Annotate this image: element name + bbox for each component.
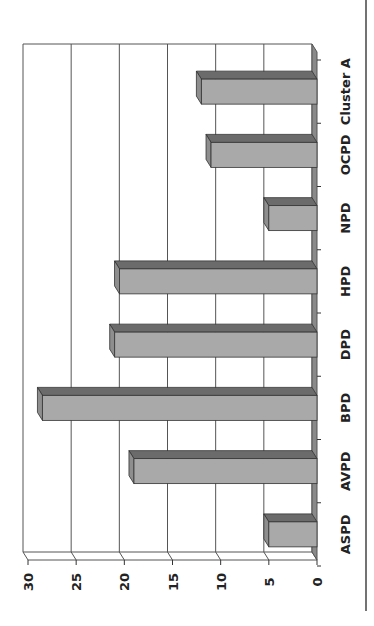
value-axis-ticks: 051015202530 — [21, 560, 325, 591]
bar-npd — [264, 198, 317, 231]
bar-dpd — [110, 324, 317, 357]
category-label: BPD — [338, 393, 353, 423]
category-label: HPD — [338, 266, 353, 297]
value-tick-label: 30 — [21, 573, 36, 591]
category-label: ASPD — [338, 514, 353, 554]
bar-aspd — [264, 514, 317, 547]
value-tick-label: 5 — [262, 577, 277, 586]
category-label: OCPD — [338, 134, 353, 175]
category-label: Cluster A — [338, 58, 353, 125]
value-tick-label: 15 — [166, 573, 181, 591]
bar-avpd — [129, 451, 317, 484]
gridlines — [23, 44, 321, 566]
category-label: NPD — [338, 202, 353, 233]
category-label: DPD — [338, 329, 353, 360]
value-tick-label: 10 — [214, 573, 229, 591]
bar-chart: 051015202530 ASPDAVPDBPDDPDHPDNPDOCPDClu… — [0, 0, 374, 626]
value-tick-label: 0 — [310, 577, 325, 586]
bar-cluster-a — [196, 71, 317, 104]
bar-ocpd — [206, 134, 317, 167]
bars — [37, 71, 317, 547]
value-tick-label: 25 — [69, 573, 84, 591]
category-labels: ASPDAVPDBPDDPDHPDNPDOCPDCluster A — [338, 58, 353, 554]
bar-hpd — [115, 261, 317, 294]
bar-bpd — [37, 387, 317, 420]
category-label: AVPD — [338, 451, 353, 491]
value-tick-label: 20 — [117, 573, 132, 591]
